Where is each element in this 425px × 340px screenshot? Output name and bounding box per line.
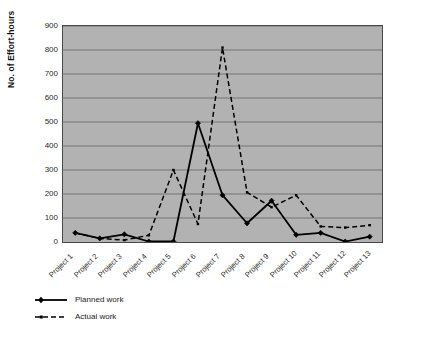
x-axis-tick-label: Project 3 <box>96 252 124 280</box>
legend-label: Actual work <box>75 312 116 322</box>
data-point-marker <box>99 237 101 239</box>
x-axis-tick-label: Project 5 <box>145 252 173 280</box>
legend-marker <box>40 315 43 318</box>
data-point-marker <box>270 206 272 208</box>
data-point-marker <box>295 194 297 196</box>
y-axis-tick-label: 800 <box>28 46 58 54</box>
series-line-planned-work <box>75 123 369 241</box>
legend-swatch-dashed <box>34 312 68 322</box>
y-axis-tick-label: 900 <box>28 22 58 30</box>
x-axis-tick-label: Project 4 <box>121 252 149 280</box>
data-point-marker <box>343 239 348 242</box>
data-point-marker <box>318 230 323 235</box>
legend-item: Actual work <box>34 308 234 325</box>
data-point-marker <box>122 232 127 237</box>
data-point-marker <box>148 234 150 236</box>
data-point-marker <box>197 223 199 225</box>
x-axis-tick-label: Project 9 <box>243 252 271 280</box>
plot-area <box>62 25 383 243</box>
data-point-marker <box>221 46 223 48</box>
data-point-marker <box>195 121 200 126</box>
data-point-marker <box>369 224 371 226</box>
y-axis-tick-label: 700 <box>28 70 58 78</box>
y-axis-tick-label: 300 <box>28 166 58 174</box>
legend-marker <box>38 296 44 302</box>
x-axis-tick-label: Project 1 <box>47 252 75 280</box>
data-point-marker <box>146 239 151 242</box>
plot-svg <box>63 26 382 242</box>
data-point-marker <box>74 232 76 234</box>
series-line-actual-work <box>75 48 369 240</box>
data-point-marker <box>367 234 372 239</box>
data-point-marker <box>319 225 321 227</box>
y-axis-tick-label: 200 <box>28 190 58 198</box>
data-point-marker <box>171 239 176 242</box>
y-axis-tick-label: 500 <box>28 118 58 126</box>
chart-legend: Planned workActual work <box>34 291 234 325</box>
x-axis-tick-label: Project 8 <box>219 252 247 280</box>
effort-hours-line-chart: No. of Effort-hours 01002003004005006007… <box>0 0 425 340</box>
y-axis-tick-label: 400 <box>28 142 58 150</box>
x-axis-tick-label: Project 2 <box>72 252 100 280</box>
x-axis-tick-label: Project 7 <box>194 252 222 280</box>
y-axis-tick-label: 600 <box>28 94 58 102</box>
data-point-marker <box>172 169 174 171</box>
y-axis-tick-label: 100 <box>28 214 58 222</box>
data-point-marker <box>123 239 125 241</box>
data-point-marker <box>246 191 248 193</box>
x-axis-tick-label: Project 6 <box>170 252 198 280</box>
legend-swatch-solid <box>34 295 68 305</box>
y-axis-title: No. of Effort-hours <box>6 0 16 88</box>
legend-item: Planned work <box>34 291 234 308</box>
data-point-marker <box>344 226 346 228</box>
legend-label: Planned work <box>75 295 123 305</box>
